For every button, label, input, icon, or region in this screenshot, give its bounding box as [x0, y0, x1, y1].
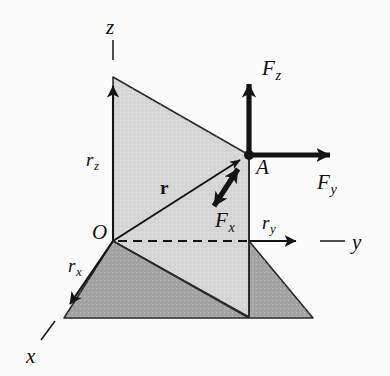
point-a-label: A	[256, 157, 269, 178]
force-fx-label: Fx	[215, 210, 234, 231]
component-ry-label-subscript: y	[270, 221, 276, 236]
position-vector-r-label: r	[160, 178, 168, 197]
force-fx-label-base: F	[215, 208, 228, 232]
shaded-regions	[64, 77, 313, 318]
force-fy-label: Fy	[317, 172, 336, 193]
component-rz-label: rz	[86, 150, 98, 169]
component-rx-label-subscript: x	[76, 264, 82, 279]
component-rx-label-base: r	[68, 255, 75, 276]
x-axis-label: x	[26, 346, 35, 367]
component-rz-label-base: r	[86, 149, 93, 170]
force-fy-label-base: F	[317, 170, 330, 194]
force-fy-label-subscript: y	[330, 181, 336, 197]
origin-label: O	[92, 222, 107, 243]
x-axis-stub	[41, 321, 55, 340]
component-ry-label: ry	[262, 213, 275, 232]
z-axis-label: z	[106, 17, 114, 38]
force-fz-label: Fz	[262, 58, 280, 79]
component-ry-label-base: r	[262, 212, 269, 233]
component-rz-label-subscript: z	[94, 158, 99, 173]
force-fz-label-subscript: z	[275, 67, 281, 83]
physics-force-vector-diagram: z y x O A r Fz Fy Fx rz rx ry	[0, 0, 390, 376]
force-fx-label-subscript: x	[228, 219, 234, 235]
force-fz-label-base: F	[262, 56, 275, 80]
point-a-marker	[244, 150, 254, 160]
y-axis-label: y	[352, 232, 361, 253]
component-rx-label: rx	[68, 256, 81, 275]
